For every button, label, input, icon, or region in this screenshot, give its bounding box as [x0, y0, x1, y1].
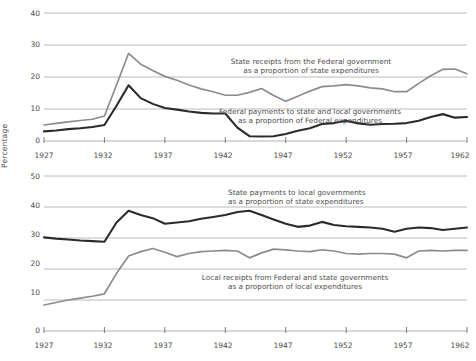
x-tick-label: 1962 — [443, 151, 476, 160]
y-tick-label: 0 — [22, 326, 40, 335]
y-axis-label-bottom: Percentage — [0, 124, 9, 168]
annotation-line-2: as a proportion of local expenditures — [176, 282, 414, 291]
y-tick-label: 30 — [22, 230, 40, 239]
annotation-line-2: as a proportion of Federal expenditures — [196, 116, 424, 125]
x-axis-top — [44, 137, 467, 143]
y-tick-label: 20 — [22, 259, 40, 268]
x-tick-label: 1952 — [326, 151, 360, 160]
x-tick-label: 1937 — [146, 151, 180, 160]
series-annotation-state-payments: State payments to local governments as a… — [228, 188, 366, 207]
y-tick-label: 10 — [22, 104, 40, 113]
x-tick-label: 1957 — [386, 341, 420, 350]
x-tick-label: 1952 — [326, 341, 360, 350]
chart-panel-top: Percentage 40 30 20 10 0 1927 1932 1937 … — [0, 0, 476, 170]
annotation-line-1: Local receipts from Federal and state go… — [202, 273, 388, 282]
x-tick-label: 1942 — [206, 151, 240, 160]
series-annotation-local-receipts: Local receipts from Federal and state go… — [176, 273, 414, 292]
y-tick-label: 30 — [22, 40, 40, 49]
y-tick-label: 40 — [22, 9, 40, 18]
annotation-line-2: as a proportion of state expenditures — [208, 66, 414, 75]
annotation-line-1: State receipts from the Federal governme… — [231, 57, 391, 66]
x-tick-label: 1947 — [266, 151, 300, 160]
y-tick-label: 50 — [22, 172, 40, 181]
series-line-0 — [44, 211, 467, 242]
annotation-line-2: as a proportion of state expenditures — [228, 197, 366, 206]
x-tick-label: 1947 — [266, 341, 300, 350]
x-axis-bottom — [44, 327, 467, 333]
y-tick-label: 40 — [22, 201, 40, 210]
y-tick-label: 0 — [22, 136, 40, 145]
annotation-line-1: Federal payments to state and local gove… — [219, 107, 401, 116]
x-tick-label: 1937 — [146, 341, 180, 350]
y-tick-label: 20 — [22, 72, 40, 81]
x-tick-label: 1932 — [86, 341, 120, 350]
x-tick-label: 1927 — [27, 151, 61, 160]
x-tick-label: 1957 — [386, 151, 420, 160]
x-tick-label: 1942 — [206, 341, 240, 350]
x-tick-label: 1927 — [27, 341, 61, 350]
chart-panel-bottom: Percentage 50 40 30 20 10 0 1927 1932 19… — [0, 168, 476, 361]
figure-two-line-charts: Percentage 40 30 20 10 0 1927 1932 1937 … — [0, 0, 476, 361]
series-annotation-state-receipts: State receipts from the Federal governme… — [208, 57, 414, 76]
x-tick-label: 1962 — [443, 341, 476, 350]
annotation-line-1: State payments to local governments — [228, 188, 366, 197]
y-tick-label: 10 — [22, 288, 40, 297]
series-annotation-federal-payments: Federal payments to state and local gove… — [196, 107, 424, 126]
x-tick-label: 1932 — [86, 151, 120, 160]
